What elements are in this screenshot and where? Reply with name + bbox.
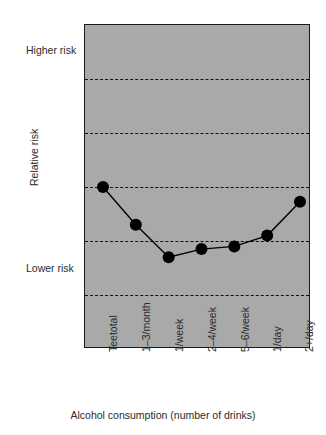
data-point <box>228 240 240 252</box>
x-tick-label-teetotal: Teetotal <box>107 315 119 352</box>
data-point <box>261 230 273 242</box>
x-tick-label-1-3-month: 1–3/month <box>140 302 152 352</box>
x-tick-label-1-day: 1/day <box>271 326 283 352</box>
higher-risk-annotation: Higher risk <box>26 44 76 56</box>
lower-risk-annotation: Lower risk <box>26 262 74 274</box>
x-tick-label-1-week: 1/week <box>173 319 185 352</box>
relative-risk-line-chart: 1.60 1.40 1.20 1.00 0.80 0.60 0.40 Relat… <box>0 0 326 435</box>
data-point <box>294 196 306 208</box>
data-point <box>97 181 109 193</box>
plot-area <box>84 24 310 348</box>
y-axis-title: Relative risk <box>28 129 40 186</box>
data-point <box>196 243 208 255</box>
x-tick-label-2-4-week: 2–4/week <box>206 307 218 352</box>
data-series <box>85 25 311 349</box>
series-markers <box>97 181 306 263</box>
x-tick-label-5-6-week: 5–6/week <box>239 307 251 352</box>
data-point <box>163 251 175 263</box>
x-axis-title: Alcohol consumption (number of drinks) <box>0 409 326 421</box>
data-point <box>130 219 142 231</box>
x-tick-label-2plus-day: 2+/day <box>303 320 315 352</box>
